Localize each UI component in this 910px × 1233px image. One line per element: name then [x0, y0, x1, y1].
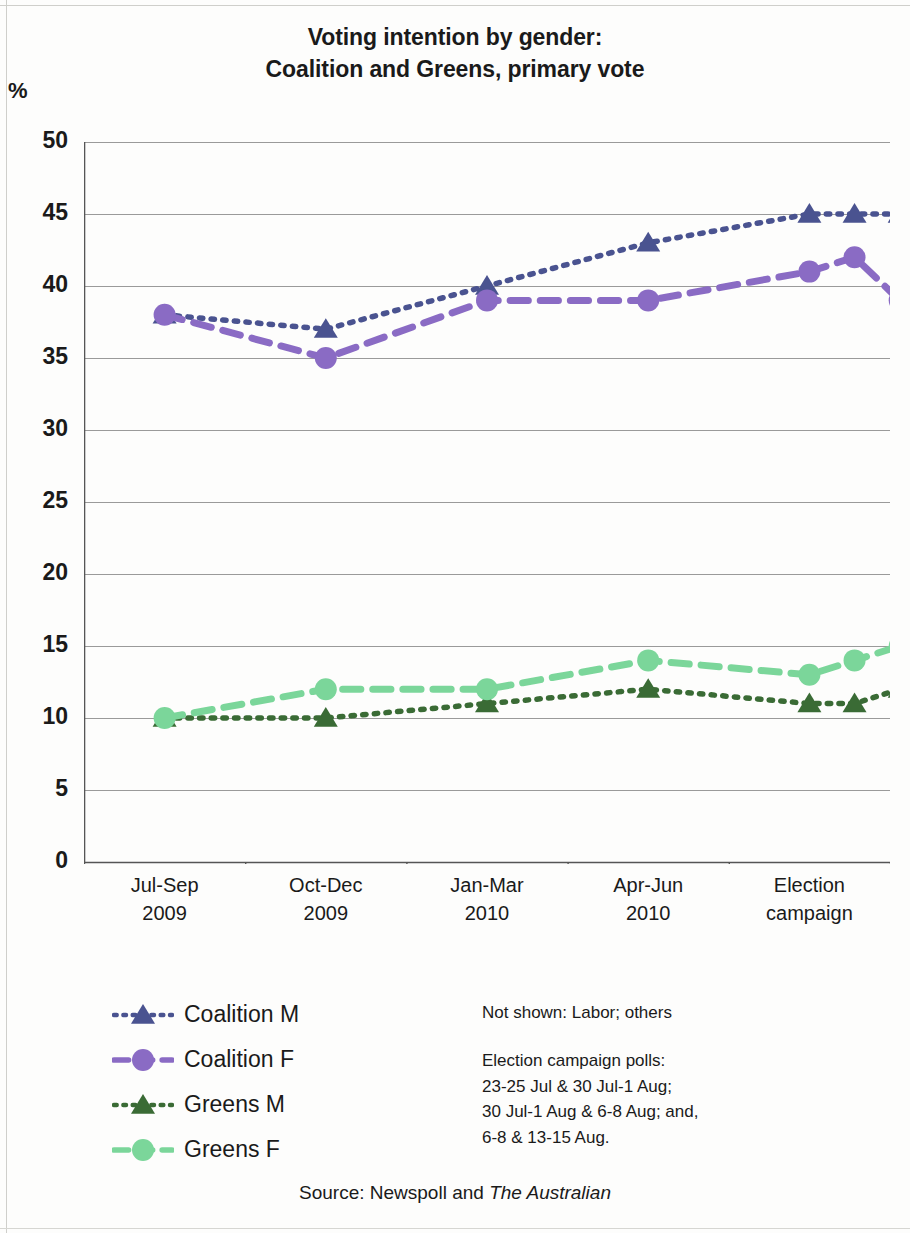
- source-caption: Source: Newspoll and The Australian: [0, 1182, 910, 1204]
- data-point-marker-circle: [315, 347, 337, 369]
- page-edge-top: [0, 5, 910, 6]
- y-axis-unit-label: %: [8, 78, 28, 104]
- data-point-marker-circle: [154, 707, 176, 729]
- data-point-marker-circle: [844, 246, 866, 268]
- series-coalition-m: [153, 203, 890, 338]
- data-point-marker-circle: [315, 678, 337, 700]
- data-point-marker-circle: [476, 289, 498, 311]
- source-publication: The Australian: [489, 1182, 611, 1203]
- legend-item-label: Greens F: [184, 1136, 280, 1163]
- y-tick-35: 35: [6, 343, 68, 370]
- x-tick-label-line-2: 2009: [245, 900, 406, 928]
- y-tick-30: 30: [6, 415, 68, 442]
- x-tick-label-line-1: Oct-Dec: [245, 872, 406, 900]
- note-not-shown: Not shown: Labor; others: [482, 1000, 782, 1026]
- x-tick-label-line-2: campaign: [729, 900, 890, 928]
- data-point-marker-circle: [132, 1139, 154, 1161]
- series-line: [165, 689, 890, 718]
- chart-notes: Not shown: Labor; others Election campai…: [482, 1000, 782, 1151]
- series-coalition-f: [154, 246, 890, 369]
- x-tick-label-line-1: Apr-Jun: [568, 872, 729, 900]
- x-tick-2: Oct-Dec2009: [245, 872, 406, 927]
- data-point-marker-circle: [132, 1049, 154, 1071]
- y-tick-5: 5: [6, 775, 68, 802]
- page-edge-left: [6, 0, 7, 1233]
- note-polls-line-2: 30 Jul-1 Aug & 6-8 Aug; and,: [482, 1099, 782, 1125]
- data-point-marker-circle: [637, 289, 659, 311]
- series-line: [165, 257, 890, 358]
- y-tick-50: 50: [6, 127, 68, 154]
- x-tick-label-line-2: 2010: [568, 900, 729, 928]
- note-not-shown-text: Not shown: Labor; others: [482, 1000, 782, 1026]
- x-tick-4: Apr-Jun2010: [568, 872, 729, 927]
- x-tick-label-line-1: Jul-Sep: [84, 872, 245, 900]
- legend-item-label: Coalition M: [184, 1001, 299, 1028]
- chart-canvas: [84, 142, 890, 864]
- x-tick-1: Jul-Sep2009: [84, 872, 245, 927]
- series-line: [165, 646, 890, 718]
- x-tick-label-line-1: Jan-Mar: [406, 872, 567, 900]
- data-point-marker-circle: [798, 261, 820, 283]
- series-greens-f: [154, 635, 890, 729]
- y-tick-15: 15: [6, 631, 68, 658]
- legend-item-greens-m[interactable]: Greens M: [112, 1082, 442, 1127]
- x-tick-label-line-2: 2010: [406, 900, 567, 928]
- x-tick-label-line-1: Election: [729, 872, 890, 900]
- legend-key-coalition-f: [112, 1047, 174, 1073]
- data-point-marker-circle: [476, 678, 498, 700]
- data-point-marker-circle: [637, 649, 659, 671]
- x-tick-5: Electioncampaign: [729, 872, 890, 927]
- x-tick-label-line-2: 2009: [84, 900, 245, 928]
- y-tick-20: 20: [6, 559, 68, 586]
- data-point-marker-circle: [844, 649, 866, 671]
- data-point-marker-circle: [798, 664, 820, 686]
- note-polls-line-1: 23-25 Jul & 30 Jul-1 Aug;: [482, 1074, 782, 1100]
- chart-title: Voting intention by gender: Coalition an…: [0, 22, 910, 85]
- chart-legend: Coalition MCoalition FGreens MGreens F: [112, 992, 442, 1172]
- note-polls-line-3: 6-8 & 13-15 Aug.: [482, 1125, 782, 1151]
- legend-key-greens-f: [112, 1137, 174, 1163]
- series-line: [165, 214, 890, 329]
- plot-area: [84, 142, 890, 862]
- y-tick-10: 10: [6, 703, 68, 730]
- legend-key-coalition-m: [112, 1002, 174, 1028]
- source-prefix: Source: Newspoll and: [299, 1182, 489, 1203]
- chart-title-line-2: Coalition and Greens, primary vote: [0, 54, 910, 86]
- legend-key-greens-m: [112, 1092, 174, 1118]
- y-tick-25: 25: [6, 487, 68, 514]
- chart-page: Voting intention by gender: Coalition an…: [0, 0, 910, 1233]
- page-edge-bottom: [0, 1228, 910, 1229]
- note-election-polls: Election campaign polls: 23-25 Jul & 30 …: [482, 1048, 782, 1151]
- y-tick-45: 45: [6, 199, 68, 226]
- data-point-marker-circle: [154, 304, 176, 326]
- legend-item-label: Coalition F: [184, 1046, 294, 1073]
- y-tick-40: 40: [6, 271, 68, 298]
- legend-item-greens-f[interactable]: Greens F: [112, 1127, 442, 1172]
- legend-item-coalition-f[interactable]: Coalition F: [112, 1037, 442, 1082]
- x-tick-3: Jan-Mar2010: [406, 872, 567, 927]
- legend-item-label: Greens M: [184, 1091, 285, 1118]
- data-point-marker-circle: [889, 635, 890, 657]
- legend-item-coalition-m[interactable]: Coalition M: [112, 992, 442, 1037]
- note-polls-heading: Election campaign polls:: [482, 1048, 782, 1074]
- y-tick-0: 0: [6, 847, 68, 874]
- chart-title-line-1: Voting intention by gender:: [0, 22, 910, 54]
